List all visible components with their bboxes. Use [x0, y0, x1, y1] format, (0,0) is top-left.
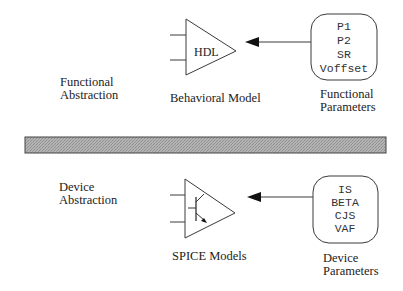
behavioral-model-caption: Behavioral Model — [170, 92, 261, 105]
param-beta: BETA — [331, 196, 359, 209]
param-p1: P1 — [337, 20, 351, 33]
param-p2: P2 — [337, 34, 351, 47]
diagram-graphics: HDL P1 P2 SR Voffset — [0, 0, 403, 291]
caption-line-2: Parameters — [323, 265, 379, 278]
arrow-left-icon — [245, 37, 259, 47]
spice-model-symbol — [170, 179, 235, 238]
param-voffset: Voffset — [320, 62, 368, 75]
functional-parameters-box: P1 P2 SR Voffset — [311, 14, 377, 80]
functional-abstraction-label: Functional Abstraction — [60, 76, 118, 102]
device-abstraction-label: Device Abstraction — [59, 181, 117, 207]
label-line-2: Abstraction — [60, 89, 118, 102]
level-separator-bar — [25, 137, 386, 153]
device-parameters-box: IS BETA CJS VAF — [313, 176, 378, 243]
param-sr: SR — [337, 48, 351, 61]
label-line-2: Abstraction — [59, 194, 117, 207]
arrow-left-icon — [247, 192, 261, 202]
bjt-transistor-icon — [188, 194, 207, 223]
behavioral-model-symbol: HDL — [170, 19, 236, 75]
functional-arrow — [245, 37, 311, 47]
hdl-label: HDL — [194, 45, 219, 59]
spice-models-caption: SPICE Models — [172, 250, 247, 263]
functional-parameters-caption: Functional Parameters — [320, 88, 376, 114]
param-vaf: VAF — [335, 222, 356, 235]
param-cjs: CJS — [335, 209, 356, 222]
param-is: IS — [338, 183, 352, 196]
caption-line-2: Parameters — [320, 101, 376, 114]
abstraction-diagram: HDL P1 P2 SR Voffset — [0, 0, 403, 291]
device-arrow — [247, 192, 313, 202]
device-parameters-caption: Device Parameters — [323, 252, 379, 278]
